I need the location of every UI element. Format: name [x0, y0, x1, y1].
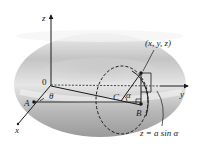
label-xyz: (x, y, z): [145, 38, 171, 48]
label-a: A: [23, 98, 30, 108]
label-alpha: α: [126, 90, 131, 100]
label-c: C: [113, 92, 120, 102]
point-b: [139, 102, 143, 106]
label-b: B: [136, 108, 142, 118]
label-y-axis: y: [179, 89, 184, 99]
label-theta: θ: [49, 91, 54, 101]
label-equation: z = a sin α: [139, 128, 179, 138]
torus-diagram: z y x 0 A θ C α B (x, y, z) z = a sin α: [0, 0, 199, 150]
point-xyz: [139, 71, 143, 75]
label-x-axis: x: [14, 125, 19, 135]
label-z-axis: z: [41, 13, 46, 23]
point-a: [32, 100, 36, 104]
label-origin: 0: [42, 77, 47, 87]
